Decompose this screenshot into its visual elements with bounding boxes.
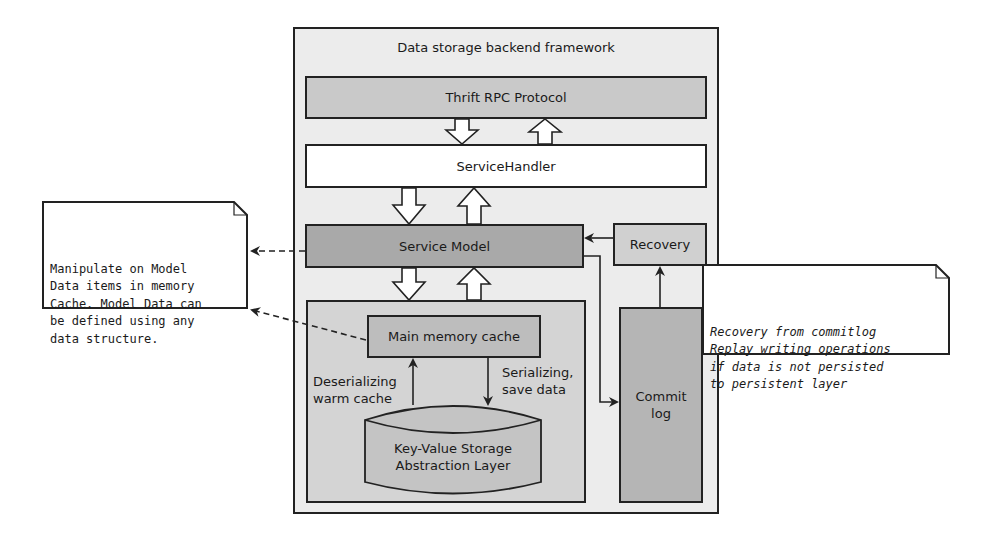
recovery-box: Recovery: [613, 223, 707, 266]
recovery-label: Recovery: [630, 236, 690, 253]
note-service-model: Manipulate on Model Data items in memory…: [42, 201, 248, 309]
serializing-label: Serializing, save data: [502, 364, 573, 398]
thrift-rpc-protocol-box: Thrift RPC Protocol: [305, 76, 707, 119]
service-handler-box: ServiceHandler: [305, 144, 707, 188]
note-recovery: Recovery from commitlog Replay writing o…: [702, 264, 950, 355]
service-model-label: Service Model: [399, 238, 490, 255]
thrift-label: Thrift RPC Protocol: [445, 89, 566, 106]
commit-log-label: Commit log: [635, 388, 686, 422]
framework-title: Data storage backend framework: [293, 40, 719, 55]
deserializing-label: Deserializing warm cache: [313, 373, 397, 407]
main-memory-cache-box: Main memory cache: [367, 315, 541, 358]
main-memory-cache-label: Main memory cache: [388, 328, 520, 345]
service-model-box: Service Model: [305, 224, 584, 268]
service-handler-label: ServiceHandler: [456, 158, 555, 175]
key-value-storage-label: Key-Value Storage Abstraction Layer: [365, 440, 541, 474]
commit-log-box: Commit log: [619, 307, 703, 503]
